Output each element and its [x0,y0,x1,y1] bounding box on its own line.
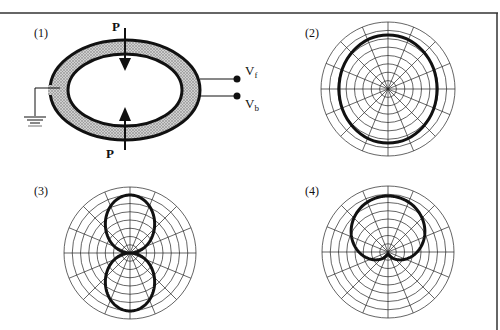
polar-grid [322,186,454,318]
panel-3-figure-eight: (3) [34,184,196,319]
terminal-back-label: Vb [245,96,259,113]
panel-1-sensor-schematic: (1) P P Vf Vb [24,19,259,161]
force-label-top: P [112,19,120,34]
diagram-canvas: (1) P P Vf Vb [0,0,500,330]
grid-spoke [388,205,435,252]
grid-spoke [341,89,388,136]
grid-spoke [341,205,388,252]
back-terminal-dot [234,93,241,100]
grid-spoke [388,89,435,136]
grid-spoke [388,42,435,89]
electrode-gap [48,85,53,95]
terminal-front-label: Vf [245,63,257,80]
panel-4-cardioid: (4) [305,184,454,318]
grid-spoke [341,42,388,89]
arrowhead-up-icon [119,107,131,121]
panel-2-omnidirectional: (2) [305,22,455,156]
ground-icon [24,117,46,126]
force-label-bottom: P [106,146,114,161]
panel-label: (2) [305,26,319,40]
polar-grid [321,22,455,156]
panel-label: (4) [305,184,319,198]
panel-label: (3) [34,184,48,198]
front-terminal-dot [234,76,241,83]
panel-label: (1) [34,26,48,40]
arrowhead-down-icon [119,58,131,71]
